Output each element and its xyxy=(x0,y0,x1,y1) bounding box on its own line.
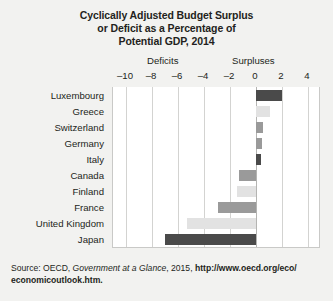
chart-title-line-3: Potential GDP, 2014 xyxy=(0,35,333,48)
bar-finland xyxy=(237,186,257,197)
category-label-finland: Finland xyxy=(73,186,104,197)
bar-canada xyxy=(239,170,256,181)
plot-canvas xyxy=(112,87,320,247)
category-label-switzerland: Switzerland xyxy=(54,122,104,133)
source-url-line-2[interactable]: economicoutlook.htm. xyxy=(11,275,103,285)
source-prefix: Source: OECD, xyxy=(11,263,73,273)
surpluses-header: Surpluses xyxy=(232,55,275,66)
source-note: Source: OECD, Government at a Glance, 20… xyxy=(11,263,323,286)
chart-area: Deficits Surpluses –10–8–6–4–2024 Luxemb… xyxy=(0,55,333,247)
category-label-greece: Greece xyxy=(73,106,104,117)
bar-italy xyxy=(256,154,261,165)
source-line-2: economicoutlook.htm. xyxy=(11,275,323,287)
source-middle: , 2015, xyxy=(166,263,195,273)
x-tick-2: 2 xyxy=(278,70,283,81)
gridline-2 xyxy=(282,87,283,247)
bar-luxembourg xyxy=(256,90,282,101)
chart-title-line-2: or Deficit as a Percentage of xyxy=(0,22,333,35)
category-label-canada: Canada xyxy=(70,170,104,181)
category-label-france: France xyxy=(74,202,104,213)
chart-title-line-1: Cyclically Adjusted Budget Surplus xyxy=(0,9,333,22)
x-tick--4: –4 xyxy=(198,70,209,81)
bar-japan xyxy=(165,234,256,245)
category-label-japan: Japan xyxy=(78,234,104,245)
bar-switzerland xyxy=(256,122,263,133)
y-axis-category-labels: LuxembourgGreeceSwitzerlandGermanyItalyC… xyxy=(0,55,108,247)
gridline--6 xyxy=(178,87,179,247)
category-label-luxembourg: Luxembourg xyxy=(51,90,104,101)
chart-title: Cyclically Adjusted Budget Surplus or De… xyxy=(0,0,333,49)
plot-bottom-border xyxy=(112,247,320,248)
source-line-1: Source: OECD, Government at a Glance, 20… xyxy=(11,263,323,275)
source-url-line-1[interactable]: http://www.oecd.org/eco/ xyxy=(195,263,297,273)
gridline--8 xyxy=(152,87,153,247)
bar-greece xyxy=(256,106,270,117)
gridline-4 xyxy=(308,87,309,247)
x-tick--10: –10 xyxy=(117,70,133,81)
bar-france xyxy=(218,202,256,213)
x-tick--2: –2 xyxy=(224,70,235,81)
bar-germany xyxy=(256,138,262,149)
category-label-united-kingdom: United Kingdom xyxy=(36,218,104,229)
x-tick--6: –6 xyxy=(172,70,183,81)
x-tick--8: –8 xyxy=(146,70,157,81)
category-label-germany: Germany xyxy=(65,138,104,149)
deficits-header: Deficits xyxy=(147,55,178,66)
category-label-italy: Italy xyxy=(86,154,104,165)
x-tick-4: 4 xyxy=(304,70,309,81)
x-tick-0: 0 xyxy=(252,70,257,81)
figure: Cyclically Adjusted Budget Surplus or De… xyxy=(0,0,333,301)
bar-united-kingdom xyxy=(187,218,256,229)
source-title: Government at a Glance xyxy=(73,263,167,273)
gridline--10 xyxy=(126,87,127,247)
